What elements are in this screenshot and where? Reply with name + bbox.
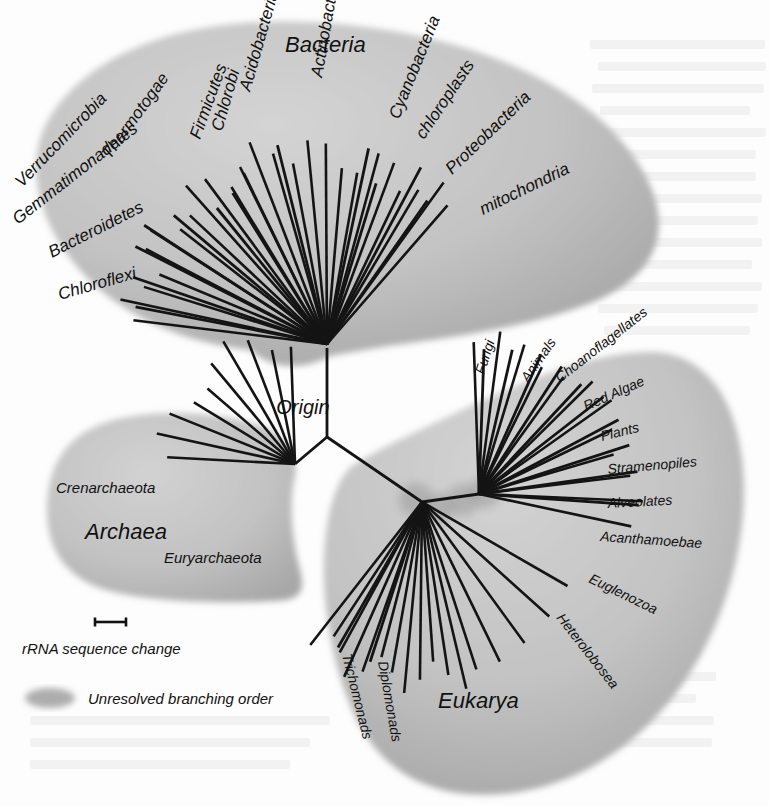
origin-label: Origin — [276, 396, 329, 418]
taxon-label: Alveolates — [606, 492, 672, 511]
bleed-line — [30, 716, 330, 725]
branch-line — [326, 144, 327, 344]
origin-label-group: Origin — [276, 396, 329, 418]
bleed-line — [598, 62, 766, 71]
domain-label-archaea: Archaea — [83, 519, 167, 544]
scale-bar-label: rRNA sequence change — [22, 640, 181, 657]
domain-label-eukarya: Eukarya — [438, 688, 519, 713]
archaea-blob — [47, 413, 302, 602]
legend: rRNA sequence changeUnresolved branching… — [22, 618, 274, 709]
branch-origin-to-archaea — [295, 437, 327, 464]
figure-canvas: ChloroflexiBacteroidetesGemmatimonadetes… — [0, 0, 769, 806]
bleed-line — [592, 84, 764, 93]
domain-label-bacteria: Bacteria — [285, 32, 366, 57]
bleed-line — [30, 738, 310, 747]
bleed-line — [30, 760, 290, 769]
unresolved-label: Unresolved branching order — [88, 690, 274, 707]
unresolved-swatch — [25, 688, 75, 708]
bleed-line — [598, 304, 758, 313]
taxon-label: Crenarchaeota — [56, 479, 155, 496]
taxon-label: Euryarchaeota — [164, 549, 262, 566]
phylogenetic-tree-svg: ChloroflexiBacteroidetesGemmatimonadetes… — [0, 0, 769, 806]
bleed-line — [590, 40, 765, 49]
bleed-line — [600, 106, 750, 115]
